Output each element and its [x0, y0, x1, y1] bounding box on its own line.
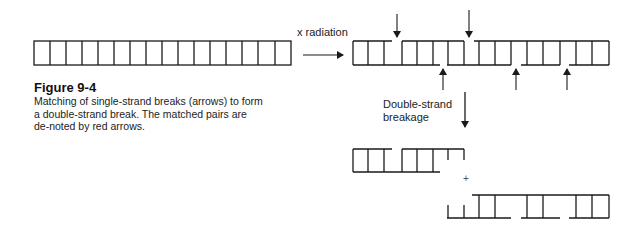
- dna-fragment-2: [447, 195, 609, 218]
- plus-sign: +: [463, 173, 469, 185]
- radiation-label: x radiation: [297, 26, 348, 38]
- intact-dna-ladder: [34, 41, 291, 65]
- figure-title: Figure 9-4: [34, 80, 96, 95]
- irradiated-dna-ladder: [353, 41, 609, 65]
- breakage-label-line1: Double-strand: [383, 98, 452, 110]
- breakage-label-line2: breakage: [383, 111, 429, 123]
- dna-fragment-1: [353, 149, 464, 172]
- figure-caption: Matching of single-strand breaks (arrows…: [34, 95, 264, 133]
